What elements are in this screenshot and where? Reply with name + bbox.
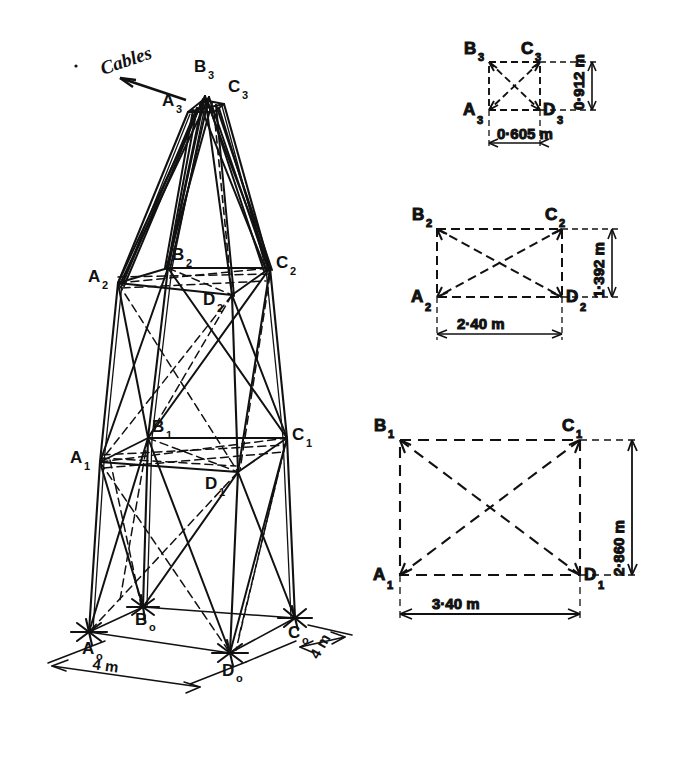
base-dim-front-label: 4 m	[92, 655, 120, 675]
node-label-a1: A	[70, 448, 82, 467]
node-label-b2-sub: 2	[186, 257, 192, 269]
section2-height-label: 1·392 m	[590, 242, 607, 298]
node-label-a2: A	[88, 267, 100, 286]
node-label-c2: C	[276, 253, 288, 272]
section1-label-d1-sub: 1	[598, 579, 604, 591]
node-label-b1: B	[152, 417, 164, 436]
section1-label-d1: D	[584, 565, 596, 584]
node-label-d1-sub: 1	[219, 486, 225, 498]
node-label-b3: B	[194, 57, 206, 76]
section3-label-d3-sub: 3	[557, 114, 563, 126]
node-label-b2: B	[172, 245, 184, 264]
node-label-d1: D	[205, 474, 217, 493]
section3-label-d3: D	[543, 100, 555, 119]
section1-label-c1: C	[562, 416, 574, 435]
tower-diagram-svg: Cables A 3 B 3 C 3 A 2 B 2 C 2 D 2 A 1 B…	[0, 0, 673, 759]
section3-label-a3-sub: 3	[477, 114, 483, 126]
node-label-b1-sub: 1	[166, 429, 172, 441]
section3-label-b3: B	[464, 39, 476, 58]
section1-label-b1: B	[374, 416, 386, 435]
node-label-d0-sub: o	[236, 672, 243, 684]
node-label-a3-sub: 3	[176, 103, 182, 115]
section2-label-a2: A	[411, 287, 423, 306]
section2-label-d2-sub: 2	[580, 301, 586, 313]
paper-background	[0, 0, 673, 759]
section2-label-a2-sub: 2	[425, 301, 431, 313]
node-label-b0: B	[135, 610, 147, 629]
section1-label-a1: A	[373, 565, 385, 584]
section3-width-label: 0·605 m	[497, 125, 553, 142]
node-label-a0: A	[82, 639, 94, 658]
node-label-c2-sub: 2	[290, 265, 296, 277]
section1-height-label: 2·860 m	[610, 520, 627, 576]
section2-label-c2: C	[545, 205, 557, 224]
node-label-c0-sub: o	[302, 634, 309, 646]
section3-label-c3: C	[521, 39, 533, 58]
section3-label-b3-sub: 3	[478, 51, 484, 63]
node-label-a2-sub: 2	[102, 279, 108, 291]
section3-label-c3-sub: 3	[535, 51, 541, 63]
section2-label-b2: B	[412, 205, 424, 224]
section1-label-c1-sub: 1	[576, 428, 582, 440]
node-label-c1: C	[292, 425, 304, 444]
node-label-b3-sub: 3	[208, 69, 214, 81]
node-label-b0-sub: o	[149, 621, 156, 633]
scan-speck	[74, 64, 77, 67]
section1-width-label: 3·40 m	[432, 595, 480, 612]
node-label-c3-sub: 3	[242, 89, 248, 101]
section2-label-b2-sub: 2	[426, 217, 432, 229]
node-label-c0: C	[288, 623, 300, 642]
section1-label-a1-sub: 1	[387, 579, 393, 591]
node-label-d2-sub: 2	[217, 302, 223, 314]
section3-height-label: 0·912 m	[570, 54, 587, 110]
section3-label-a3: A	[463, 100, 475, 119]
section2-label-c2-sub: 2	[559, 217, 565, 229]
node-label-d0: D	[222, 661, 234, 680]
node-label-a3: A	[162, 91, 174, 110]
figure-root: Cables A 3 B 3 C 3 A 2 B 2 C 2 D 2 A 1 B…	[0, 0, 673, 759]
section2-width-label: 2·40 m	[457, 315, 505, 332]
section1-label-b1-sub: 1	[388, 428, 394, 440]
node-label-c3: C	[228, 77, 240, 96]
node-label-d2: D	[203, 290, 215, 309]
node-label-a1-sub: 1	[84, 460, 90, 472]
section2-label-d2: D	[566, 287, 578, 306]
node-label-c1-sub: 1	[306, 437, 312, 449]
